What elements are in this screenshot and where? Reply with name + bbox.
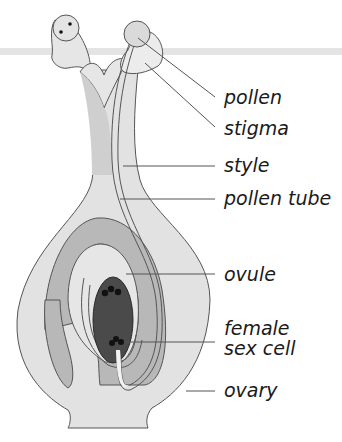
label-female-sex-cell-line2: sex cell — [224, 338, 296, 358]
pollen-nucleus — [59, 30, 63, 34]
label-style: style — [224, 155, 270, 175]
pistil-diagram — [0, 0, 342, 442]
synergid-cell — [109, 340, 115, 346]
label-female-sex-cell-line1: female — [224, 318, 290, 338]
antipodal-cell — [108, 286, 114, 292]
antipodal-cell — [102, 290, 108, 296]
pollen-grain-right — [124, 21, 150, 47]
antipodal-cell — [115, 289, 121, 295]
label-ovule: ovule — [224, 264, 276, 284]
pollen-grain-left — [53, 15, 79, 41]
leader-stigma — [145, 63, 215, 127]
label-pollen-tube: pollen tube — [224, 188, 331, 208]
pollen-nucleus — [68, 22, 72, 26]
label-ovary: ovary — [224, 380, 278, 400]
label-pollen: pollen — [224, 87, 282, 107]
label-stigma: stigma — [224, 118, 289, 138]
synergid-cell — [118, 339, 124, 345]
